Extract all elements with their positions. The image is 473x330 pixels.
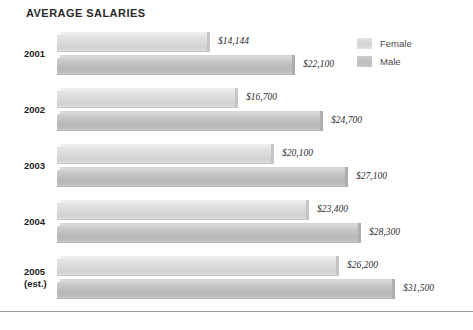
bar-right-face-icon — [235, 88, 238, 108]
bar-value-male: $27,100 — [356, 171, 387, 181]
bar-top-bevel-icon — [60, 144, 271, 147]
bar-top-bevel-icon — [60, 88, 235, 91]
group-year: 2003 — [24, 160, 45, 171]
average-salaries-chart: AVERAGE SALARIES Female Male 2001 $ — [0, 0, 473, 330]
bottom-divider — [0, 311, 473, 312]
bar-group: 2001 $14,144 $22,100 — [0, 32, 473, 82]
bar-bottom-shade-icon — [57, 107, 235, 108]
bar-female[interactable] — [57, 259, 336, 276]
bar-male[interactable] — [57, 58, 292, 75]
bar-female[interactable] — [57, 147, 271, 164]
bar-right-face-icon — [336, 256, 339, 276]
bar-female[interactable] — [57, 91, 235, 108]
bar-value-female: $16,700 — [246, 92, 277, 102]
bar-female[interactable] — [57, 35, 207, 52]
bar-right-face-icon — [320, 111, 323, 131]
bar-right-face-icon — [292, 55, 295, 75]
bar-top-bevel-icon — [60, 32, 207, 35]
bar-male[interactable] — [57, 226, 358, 243]
bar-male[interactable] — [57, 114, 320, 131]
bar-right-face-icon — [358, 223, 361, 243]
bar-value-female: $20,100 — [282, 148, 313, 158]
group-year: 2005 — [24, 266, 45, 277]
bar-value-female: $23,400 — [317, 204, 348, 214]
bar-value-male: $22,100 — [303, 59, 334, 69]
bar-top-bevel-icon — [60, 55, 292, 58]
bar-top-bevel-icon — [60, 111, 320, 114]
bar-bottom-shade-icon — [57, 298, 392, 299]
bar-bottom-shade-icon — [57, 163, 271, 164]
group-year: 2002 — [24, 104, 45, 115]
bar-top-bevel-icon — [60, 200, 306, 203]
bar-right-face-icon — [392, 279, 395, 299]
bar-bottom-shade-icon — [57, 130, 320, 131]
bar-bottom-shade-icon — [57, 275, 336, 276]
bar-top-bevel-icon — [60, 256, 336, 259]
bar-value-male: $24,700 — [331, 115, 362, 125]
bar-group: 2003 $20,100 $27,100 — [0, 144, 473, 194]
bar-top-bevel-icon — [60, 167, 345, 170]
bar-bottom-shade-icon — [57, 186, 345, 187]
bar-right-face-icon — [271, 144, 274, 164]
bar-top-bevel-icon — [60, 223, 358, 226]
bar-group: 2004 $23,400 $28,300 — [0, 200, 473, 250]
bar-value-male: $28,300 — [369, 227, 400, 237]
bar-female[interactable] — [57, 203, 306, 220]
bar-right-face-icon — [207, 32, 210, 52]
group-year: 2001 — [24, 48, 45, 59]
group-year: 2004 — [24, 216, 45, 227]
bar-male[interactable] — [57, 282, 392, 299]
bar-group: 2005 (est.) $26,200 $31,500 — [0, 256, 473, 306]
bar-male[interactable] — [57, 170, 345, 187]
bar-bottom-shade-icon — [57, 219, 306, 220]
plot-area: 2001 $14,144 $22,100 — [0, 0, 473, 310]
bar-value-female: $14,144 — [218, 36, 249, 46]
bar-right-face-icon — [306, 200, 309, 220]
bar-value-female: $26,200 — [347, 260, 378, 270]
bar-bottom-shade-icon — [57, 74, 292, 75]
bar-bottom-shade-icon — [57, 51, 207, 52]
bar-value-male: $31,500 — [403, 283, 434, 293]
bar-top-bevel-icon — [60, 279, 392, 282]
bar-right-face-icon — [345, 167, 348, 187]
bar-group: 2002 $16,700 $24,700 — [0, 88, 473, 138]
bar-bottom-shade-icon — [57, 242, 358, 243]
